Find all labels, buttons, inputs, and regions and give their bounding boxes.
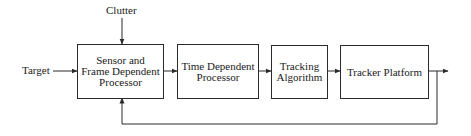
sensor-frame-processor-block: Sensor and Frame Dependent Processor xyxy=(77,44,164,99)
block-label-line: Tracker Platform xyxy=(347,67,422,78)
target-label: Target xyxy=(22,64,50,76)
clutter-label: Clutter xyxy=(106,4,137,16)
block-label-line: Processor xyxy=(81,77,160,88)
block-label-line: Algorithm xyxy=(277,72,323,83)
time-dependent-processor-block: Time Dependent Processor xyxy=(177,44,259,99)
block-label-line: Processor xyxy=(181,72,254,83)
tracker-platform-block: Tracker Platform xyxy=(340,45,429,99)
tracking-algorithm-block: Tracking Algorithm xyxy=(271,45,328,99)
block-label-line: Time Dependent xyxy=(181,61,254,72)
